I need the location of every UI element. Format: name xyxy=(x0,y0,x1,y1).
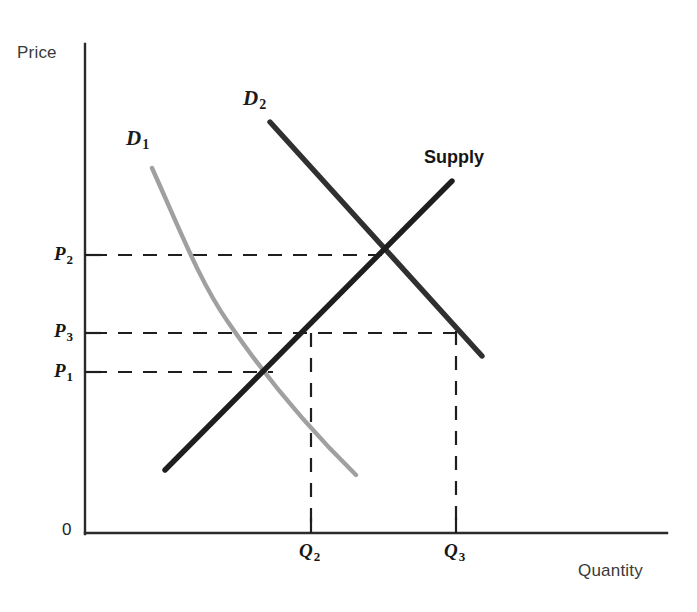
quantity-tick-label-q3-subscript: 3 xyxy=(459,549,466,564)
price-tick-label-p2-base: P xyxy=(54,243,66,264)
demand-curve-1-label-base: D xyxy=(126,126,141,150)
demand-curve-2-label: D2 xyxy=(243,86,265,111)
quantity-tick-label-q3-base: Q xyxy=(444,540,458,561)
price-axis-title: Price xyxy=(17,43,57,63)
quantity-tick-label-q2-subscript: 2 xyxy=(314,549,321,564)
price-tick-label-p1-subscript: 1 xyxy=(67,369,74,384)
price-tick-label-p1-base: P xyxy=(54,360,66,381)
quantity-tick-marks xyxy=(311,518,456,533)
demand-curve-1 xyxy=(152,168,356,475)
price-tick-marks xyxy=(85,255,101,372)
quantity-tick-label-q3: Q3 xyxy=(444,540,464,562)
chart-canvas xyxy=(0,0,697,612)
price-tick-label-p3-base: P xyxy=(54,320,66,341)
demand-curve-1-label: D1 xyxy=(126,126,148,151)
supply-curve-label: Supply xyxy=(424,147,484,168)
quantity-axis-title: Quantity xyxy=(578,561,643,581)
price-tick-label-p3: P3 xyxy=(54,320,72,342)
price-tick-label-p2-subscript: 2 xyxy=(67,252,74,267)
price-tick-label-p3-subscript: 3 xyxy=(67,329,74,344)
quantity-tick-label-q2-base: Q xyxy=(299,540,313,561)
price-tick-label-p2: P2 xyxy=(54,243,72,265)
demand-curve-2-label-base: D xyxy=(243,86,258,110)
quantity-tick-label-q2: Q2 xyxy=(299,540,319,562)
guide-lines-group xyxy=(93,255,456,527)
supply-demand-figure: Price Quantity 0 D1 D2 Supply P2 P3 P1 Q… xyxy=(0,0,697,612)
demand-curve-2-label-subscript: 2 xyxy=(259,97,266,112)
demand-curve-1-label-subscript: 1 xyxy=(142,137,149,152)
origin-label: 0 xyxy=(62,520,71,540)
price-tick-label-p1: P1 xyxy=(54,360,72,382)
